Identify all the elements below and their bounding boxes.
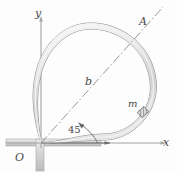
point-a-label: A	[139, 16, 147, 27]
angle-value: 45	[68, 124, 81, 135]
mass-label: m	[128, 99, 137, 109]
mechanics-figure: y x O A b m 45°	[0, 0, 177, 173]
radius-b-label: b	[85, 76, 92, 87]
origin-label: O	[15, 152, 24, 163]
angle-label: 45°	[68, 124, 84, 135]
x-axis-label: x	[163, 137, 169, 148]
degree-symbol: °	[81, 123, 85, 131]
y-axis-label: y	[35, 8, 41, 19]
